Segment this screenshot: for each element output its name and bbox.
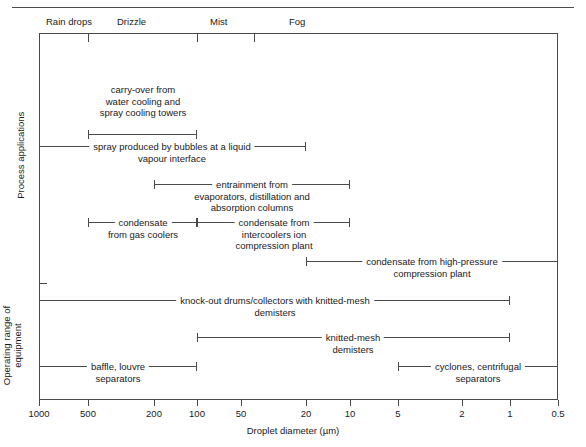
range-bar-label-line: evaporators, distillation and <box>194 191 310 203</box>
x-axis-tick <box>350 400 351 406</box>
x-axis-tick-label: 200 <box>146 408 162 419</box>
classification-tick <box>197 33 198 42</box>
range-cap-left <box>39 296 40 305</box>
range-bar-label: condensatefrom gas coolers <box>108 217 178 240</box>
range-bar-label-line: intercoolers ion <box>235 229 314 241</box>
x-axis-tick-label: 1 <box>507 408 512 419</box>
classification-label-fog: Fog <box>289 16 305 27</box>
range-bar-label: spray produced by bubbles at a liquidvap… <box>89 141 254 164</box>
range-cap-right <box>196 130 197 139</box>
x-axis-tick <box>462 400 463 406</box>
droplet-size-chart: Rain dropsDrizzleMistFog 100050020010050… <box>0 0 586 447</box>
x-axis-tick-label: 500 <box>80 408 96 419</box>
range-cap-left <box>398 362 399 371</box>
y-group-label-process-applications: Process applications <box>16 85 27 225</box>
range-bar-label-line: separators <box>431 373 525 385</box>
range-bar-label: knock-out drums/collectors with knitted-… <box>176 295 374 318</box>
range-bar-label: condensate from high-pressurecompression… <box>362 256 502 279</box>
range-bar-label-line: condensate from <box>235 217 314 229</box>
range-bar <box>88 130 197 139</box>
range-bar-label: knitted-meshdemisters <box>322 332 384 355</box>
range-bar-label: cyclones, centrifugalseparators <box>431 361 525 384</box>
x-axis-tick <box>510 400 511 406</box>
range-bar-label-line: demisters <box>176 307 374 319</box>
range-bar-label-line: compression plant <box>362 268 502 280</box>
y-group-label-operating-range: Operating range of equipment <box>2 291 23 401</box>
range-bar-label: baffle, louvreseparators <box>87 361 149 384</box>
range-bar-label-line: entrainment from <box>212 179 292 191</box>
range-cap-left <box>154 180 155 189</box>
group-divider-tick <box>39 283 47 284</box>
range-bar-label: entrainment fromevaporators, distillatio… <box>194 179 310 214</box>
range-cap-right <box>196 362 197 371</box>
range-bar-label-line: condensate <box>114 217 171 229</box>
range-cap-right <box>349 218 350 227</box>
x-axis-tick <box>39 400 40 406</box>
x-axis-tick-label: 50 <box>236 408 247 419</box>
x-axis-tick <box>306 400 307 406</box>
range-cap-right <box>305 142 306 151</box>
x-axis-tick-label: 5 <box>395 408 400 419</box>
x-axis-tick-label: 0.5 <box>551 408 564 419</box>
x-axis-tick <box>558 400 559 406</box>
range-bar-label: condensate fromintercoolers ioncompressi… <box>235 217 314 252</box>
range-bar-label-line: carry-over from <box>107 84 179 96</box>
range-bar-label-line: cyclones, centrifugal <box>431 361 525 373</box>
range-bar-label-line: knock-out drums/collectors with knitted-… <box>176 295 374 307</box>
x-axis-tick <box>241 400 242 406</box>
range-bar-label-line: condensate from high-pressure <box>362 256 502 268</box>
range-bar-label-line: absorption columns <box>194 202 310 214</box>
range-cap-left <box>39 362 40 371</box>
x-axis-tick-label: 100 <box>189 408 205 419</box>
x-axis-tick <box>154 400 155 406</box>
range-cap-right <box>557 362 558 371</box>
x-axis-title: Droplet diameter (µm) <box>0 425 586 436</box>
range-cap-right <box>349 180 350 189</box>
range-cap-left <box>88 218 89 227</box>
x-axis-tick <box>398 400 399 406</box>
header-rule <box>12 7 574 8</box>
classification-tick <box>254 33 255 42</box>
range-bar-label-line: separators <box>87 373 149 385</box>
x-axis-tick-label: 20 <box>301 408 312 419</box>
range-cap-right <box>509 333 510 342</box>
range-cap-left <box>39 142 40 151</box>
classification-label-rain-drops: Rain drops <box>46 16 92 27</box>
range-bar-label: carry-over fromwater cooling andspray co… <box>100 84 187 119</box>
x-axis-tick <box>197 400 198 406</box>
range-cap-left <box>306 257 307 266</box>
range-bar-label-line: demisters <box>322 344 384 356</box>
range-bar-label-line: water cooling and <box>100 96 187 108</box>
range-bar-label-line: baffle, louvre <box>87 361 149 373</box>
range-cap-left <box>197 218 198 227</box>
classification-label-drizzle: Drizzle <box>117 16 146 27</box>
x-axis-tick <box>88 400 89 406</box>
range-cap-left <box>88 130 89 139</box>
range-bar-label-line: vapour interface <box>89 153 254 165</box>
range-bar-label-line: compression plant <box>235 240 314 252</box>
range-bar-label-line: spray produced by bubbles at a liquid <box>89 141 254 153</box>
x-axis-tick-label: 1000 <box>28 408 49 419</box>
x-axis-tick-label: 10 <box>345 408 356 419</box>
range-bar-label-line: from gas coolers <box>108 229 178 241</box>
classification-tick <box>88 33 89 42</box>
range-cap-right <box>509 296 510 305</box>
range-bar-label-line: knitted-mesh <box>322 332 384 344</box>
range-cap-left <box>197 333 198 342</box>
x-axis-tick-label: 2 <box>459 408 464 419</box>
range-cap-right <box>557 257 558 266</box>
range-line <box>88 134 197 135</box>
classification-label-mist: Mist <box>210 16 227 27</box>
range-bar-label-line: spray cooling towers <box>100 107 187 119</box>
